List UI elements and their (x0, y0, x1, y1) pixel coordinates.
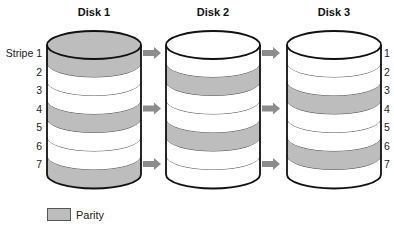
stripe-label-right: 6 (384, 140, 390, 152)
disk-title: Disk 3 (318, 6, 350, 18)
disk-top (47, 31, 141, 59)
stripe-label-left: 7 (36, 158, 42, 170)
stripe-label-right: 7 (384, 158, 390, 170)
arrow-icon (262, 47, 280, 59)
legend: Parity (47, 208, 104, 221)
stripe-label-right: 5 (384, 121, 390, 133)
stripe-label-left: 5 (36, 121, 42, 133)
stripe-label-left: 2 (36, 66, 42, 78)
arrow-icon (143, 103, 161, 115)
disk-top (166, 31, 260, 59)
stripe-label-right: 4 (384, 103, 390, 115)
stripe-label-left: 6 (36, 140, 42, 152)
stripe-label-right: 3 (384, 84, 390, 96)
arrow-icon (143, 158, 161, 170)
stripe-label-left: Stripe 1 (6, 47, 42, 59)
arrow-icon (262, 103, 280, 115)
raid-diagram: Disk 1Disk 2Disk 3 Stripe 12345671234567 (0, 0, 394, 233)
stripe-label-right: 1 (384, 47, 390, 59)
stripe-label-left: 4 (36, 103, 42, 115)
legend-parity-label: Parity (76, 209, 104, 221)
disk-3: Disk 3 (287, 6, 381, 188)
disk-top (287, 31, 381, 59)
disk-1: Disk 1 (47, 6, 141, 189)
stripe-label-left: 3 (36, 84, 42, 96)
disk-title: Disk 2 (197, 6, 229, 18)
stripe-label-right: 2 (384, 66, 390, 78)
arrow-icon (143, 47, 161, 59)
disk-title: Disk 1 (78, 6, 110, 18)
arrow-icon (262, 158, 280, 170)
parity-swatch (47, 208, 71, 221)
disk-2: Disk 2 (166, 6, 260, 189)
